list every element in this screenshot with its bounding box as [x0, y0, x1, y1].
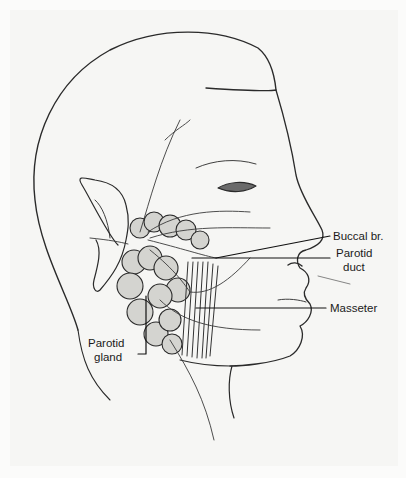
- label-parotid-gland-line1: Parotid: [88, 336, 124, 350]
- forehead-face-profile: [206, 88, 323, 366]
- eye: [218, 182, 256, 191]
- mouth: [278, 299, 306, 302]
- nostril: [288, 263, 302, 266]
- masseter-muscle: [182, 262, 218, 358]
- jaw-line: [180, 360, 230, 366]
- parotid-gland-shape: [117, 212, 209, 354]
- label-parotid-duct-line2: duct: [343, 260, 365, 274]
- label-masseter: Masseter: [330, 301, 377, 315]
- eyebrow: [196, 161, 256, 168]
- label-buccal-branch: Buccal br.: [333, 229, 384, 243]
- diagram-canvas: Buccal br. Parotid duct Masseter Parotid…: [0, 0, 406, 478]
- ear-outline: [80, 178, 128, 291]
- neck-front: [229, 366, 234, 418]
- label-parotid-duct-line1: Parotid: [336, 246, 372, 260]
- label-parotid-gland-line2: gland: [94, 350, 122, 364]
- ear-inner: [95, 200, 110, 238]
